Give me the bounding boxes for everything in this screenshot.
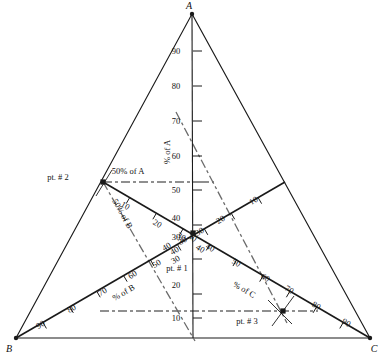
point-label-pt-2: pt. # 2 — [47, 172, 69, 182]
vertex-label-C: C — [371, 343, 378, 354]
point-labels-group: pt. # 1pt. # 2pt. # 3 — [47, 172, 258, 326]
axis-lines-group — [16, 14, 370, 338]
guide-label-guide-50-b: 50% of B — [110, 197, 135, 231]
guide-label-guide-50-a: 50% of A — [112, 166, 145, 176]
vertex-dot-A — [190, 12, 194, 16]
ternary-diagram-svg: 9080706050403020109080706050403090807060… — [0, 0, 386, 362]
tick-number-a-50-4: 50 — [172, 185, 181, 195]
pt2-cross-tick — [96, 170, 112, 196]
vertex-dot-B — [14, 336, 18, 340]
tick-number-b-60-3: 60 — [126, 268, 138, 281]
tick-number-a-80-1: 80 — [172, 81, 181, 91]
tick-numbers-group: 9080706050403020109080706050403090807060… — [34, 46, 353, 331]
point-label-pt-3: pt. # 3 — [236, 316, 258, 326]
tick-number-center-40-2: 40 — [194, 242, 206, 255]
tick-number-a-90-0: 90 — [172, 46, 181, 56]
vertex-label-A: A — [185, 0, 193, 11]
axis-name-axis-c: % of C — [232, 279, 258, 300]
tick-number-ne-10-0: 10 — [247, 194, 259, 207]
data-point-pt-1[interactable] — [190, 230, 195, 235]
vertex-label-B: B — [6, 343, 12, 354]
tick-number-ne-20-1: 20 — [214, 213, 226, 226]
tick-number-a-20-7: 20 — [172, 280, 181, 290]
vertex-dot-C — [368, 336, 372, 340]
axis-name-axis-b: % of B — [111, 282, 137, 303]
axis-name-axis-a: % of A — [162, 139, 172, 164]
tick-number-b-90-0: 90 — [34, 318, 46, 331]
tick-number-a-40-5: 40 — [172, 213, 181, 223]
tick-number-a-70-2: 70 — [172, 116, 181, 126]
tick-number-a-10-8: 10 — [172, 313, 181, 323]
point-label-pt-1: pt. # 1 — [166, 263, 188, 273]
ternary-diagram-figure: 9080706050403020109080706050403090807060… — [0, 0, 386, 362]
tick-axis-b-4 — [124, 276, 128, 282]
tick-number-b-70-2: 70 — [96, 285, 108, 298]
tick-number-a-60-3: 60 — [172, 151, 181, 161]
axis-line-a — [192, 14, 193, 338]
